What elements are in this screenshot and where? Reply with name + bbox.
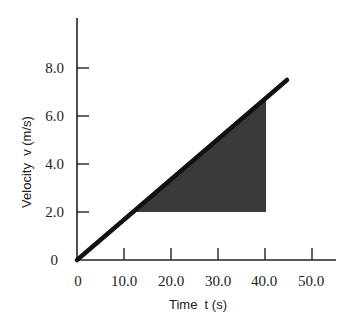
x-tick-label-40: 40.0 bbox=[251, 273, 277, 289]
x-ticks bbox=[124, 248, 312, 260]
x-axis-title: Time t (s) bbox=[169, 297, 227, 312]
x-tick-label-20: 20.0 bbox=[158, 273, 184, 289]
y-tick-label-0: 0 bbox=[51, 252, 59, 268]
x-tick-label-10: 10.0 bbox=[111, 273, 137, 289]
x-tick-label-50: 50.0 bbox=[298, 273, 324, 289]
y-axis-title: Velocity v (m/s) bbox=[19, 116, 34, 208]
x-tick-label-30: 30.0 bbox=[205, 273, 231, 289]
x-tick-label-0: 0 bbox=[74, 273, 82, 289]
y-ticks bbox=[77, 68, 89, 212]
velocity-time-chart: 8.0 6.0 4.0 2.0 0 0 10.0 20.0 30.0 40.0 … bbox=[0, 0, 352, 332]
y-tick-label-8: 8.0 bbox=[45, 60, 64, 76]
y-tick-label-2: 2.0 bbox=[45, 204, 64, 220]
y-tick-label-6: 6.0 bbox=[45, 108, 64, 124]
y-tick-label-4: 4.0 bbox=[45, 156, 64, 172]
